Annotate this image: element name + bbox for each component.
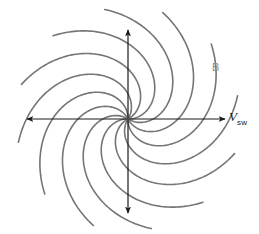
spiral-diagram-canvas bbox=[0, 0, 259, 234]
velocity-label: Vsw bbox=[229, 110, 247, 127]
velocity-symbol: V bbox=[229, 109, 237, 124]
parker-spiral-figure: Vsw B bbox=[0, 0, 259, 234]
magnetic-field-label: B bbox=[212, 62, 219, 73]
velocity-subscript: sw bbox=[237, 118, 247, 127]
